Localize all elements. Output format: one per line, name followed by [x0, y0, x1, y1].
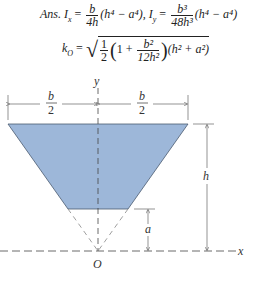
extension-line-left	[68, 209, 98, 251]
offset-label: a	[145, 222, 151, 236]
trapezoid-area	[8, 124, 188, 209]
extension-line-right	[98, 209, 128, 251]
half-width-right-num: b	[139, 89, 145, 103]
half-width-left-den: 2	[48, 103, 54, 117]
half-width-right-den: 2	[139, 103, 145, 117]
half-width-left-num: b	[48, 89, 54, 103]
y-axis-label: y	[93, 74, 100, 88]
origin-label: O	[93, 257, 102, 271]
trapezoid-figure: y x O b 2 b 2 h a	[0, 0, 274, 284]
x-axis-label: x	[237, 244, 244, 258]
height-label: h	[203, 169, 209, 183]
